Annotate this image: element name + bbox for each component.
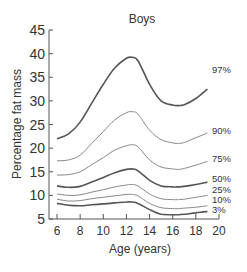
label-75pct: 75% bbox=[212, 153, 232, 164]
percentile-labels: 97%90%75%50%25%10%3% bbox=[212, 64, 232, 215]
x-axis-label: Age (years) bbox=[109, 242, 171, 256]
label-97pct: 97% bbox=[212, 64, 232, 75]
y-tick-label: 20 bbox=[29, 140, 45, 156]
axis-lines bbox=[49, 30, 219, 219]
x-axis-ticks: 68101214161820 bbox=[54, 214, 226, 238]
label-3pct: 3% bbox=[212, 204, 226, 215]
y-tick-label: 40 bbox=[29, 46, 45, 62]
x-tick-label: 14 bbox=[143, 224, 157, 238]
x-tick-label: 18 bbox=[189, 224, 203, 238]
percentile-curves bbox=[57, 57, 207, 215]
y-tick-label: 30 bbox=[29, 93, 45, 109]
y-tick-label: 35 bbox=[29, 69, 45, 85]
y-tick-label: 15 bbox=[29, 164, 45, 180]
x-tick-label: 6 bbox=[54, 224, 61, 238]
label-90pct: 90% bbox=[212, 125, 232, 136]
curve-75pct bbox=[57, 145, 207, 175]
y-tick-label: 25 bbox=[29, 117, 45, 133]
curve-90pct bbox=[57, 112, 207, 161]
percentile-chart: Boys 51015202530354045 68101214161820 97… bbox=[0, 0, 247, 272]
x-tick-label: 12 bbox=[120, 224, 134, 238]
y-tick-label: 10 bbox=[29, 187, 45, 203]
y-axis-label: Percentage fat mass bbox=[10, 69, 24, 179]
y-tick-label: 5 bbox=[37, 211, 45, 227]
curve-97pct bbox=[57, 57, 207, 139]
x-tick-label: 8 bbox=[77, 224, 84, 238]
x-tick-label: 20 bbox=[212, 224, 226, 238]
label-50pct: 50% bbox=[212, 173, 232, 184]
axes bbox=[49, 30, 219, 219]
y-tick-label: 45 bbox=[29, 22, 45, 38]
chart-title: Boys bbox=[129, 12, 156, 26]
x-tick-label: 16 bbox=[166, 224, 180, 238]
x-tick-label: 10 bbox=[97, 224, 111, 238]
